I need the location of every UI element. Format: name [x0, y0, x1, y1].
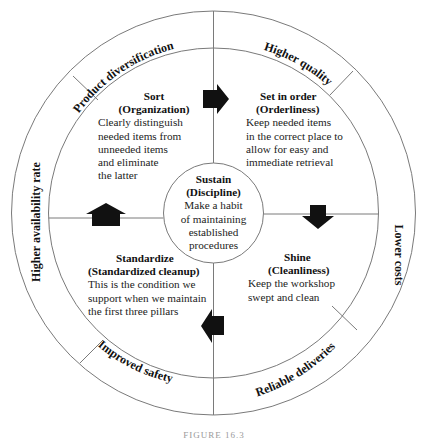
sort-line: and eliminate: [98, 156, 210, 169]
figure-caption: FIGURE 16.3: [182, 430, 246, 439]
sort-line: Clearly distinguish: [98, 116, 210, 129]
sustain-line: established: [166, 226, 261, 239]
quadrant-sort: Sort (Organization) Clearly distinguish …: [98, 90, 210, 182]
sort-line: needed items from: [98, 130, 210, 143]
sort-title: Sort: [98, 90, 210, 103]
set-in-order-line: Keep needed items: [246, 116, 371, 129]
quadrant-standardize: Standardize (Standardized cleanup) This …: [88, 252, 210, 318]
standardize-line: the first three pillars: [88, 305, 210, 318]
standardize-line: support when we maintain: [88, 292, 210, 305]
shine-subtitle: (Cleanliness): [248, 264, 358, 277]
standardize-line: This is the condition we: [88, 278, 210, 291]
shine-line: Keep the workshop: [248, 277, 358, 290]
standardize-title: Standardize: [88, 252, 210, 265]
ring-label-improved-safety: Improved safety: [96, 337, 175, 385]
shine-line: swept and clean: [248, 291, 358, 304]
standardize-subtitle: (Standardized cleanup): [88, 265, 210, 278]
arrow-down-icon: [302, 205, 334, 229]
center-sustain: Sustain (Discipline) Make a habit of mai…: [166, 173, 261, 252]
quadrant-set-in-order: Set in order (Orderliness) Keep needed i…: [246, 90, 371, 169]
sustain-line: procedures: [166, 239, 261, 252]
sort-subtitle: (Organization): [98, 103, 210, 116]
sort-line: unneeded items: [98, 143, 210, 156]
set-in-order-line: immediate retrieval: [246, 156, 371, 169]
ring-label-higher-quality: Higher quality: [263, 39, 336, 88]
set-in-order-subtitle: (Orderliness): [246, 103, 371, 116]
ring-label-higher-availability-rate: Higher availability rate: [29, 161, 43, 281]
quadrant-shine: Shine (Cleanliness) Keep the workshop sw…: [248, 251, 358, 304]
set-in-order-line: allow for easy and: [246, 143, 371, 156]
set-in-order-line: in the correct place to: [246, 130, 371, 143]
sustain-title: Sustain: [166, 173, 261, 186]
sustain-line: Make a habit: [166, 199, 261, 212]
sustain-line: of maintaining: [166, 213, 261, 226]
ring-label-lower-costs: Lower costs: [392, 225, 406, 286]
set-in-order-title: Set in order: [246, 90, 371, 103]
arrow-up-icon: [86, 203, 126, 226]
shine-title: Shine: [248, 251, 358, 264]
sustain-subtitle: (Discipline): [166, 186, 261, 199]
